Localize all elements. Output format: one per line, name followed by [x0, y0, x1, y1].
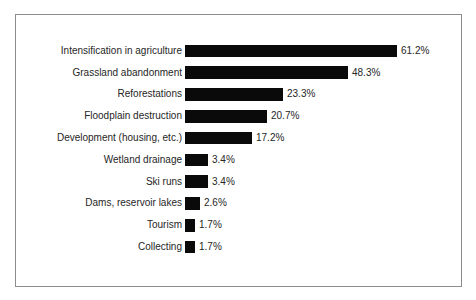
value-label: 17.2% [256, 132, 284, 144]
bar [185, 197, 200, 210]
bar-row: Reforestations23.3% [16, 84, 461, 106]
bar [185, 66, 348, 79]
bar-row: Dams, reservoir lakes2.6% [16, 193, 461, 215]
chart-frame: Intensification in agriculture61.2%Grass… [15, 14, 462, 287]
value-label: 20.7% [271, 110, 299, 122]
bar [185, 219, 195, 232]
bar-row: Tourism1.7% [16, 214, 461, 236]
bar [185, 110, 267, 123]
bar-row: Intensification in agriculture61.2% [16, 40, 461, 62]
category-label: Intensification in agriculture [16, 45, 182, 57]
bar-row: Development (housing, etc.)17.2% [16, 127, 461, 149]
bar-row: Floodplain destruction20.7% [16, 105, 461, 127]
category-label: Reforestations [16, 88, 182, 100]
category-label: Development (housing, etc.) [16, 132, 182, 144]
bar-row: Ski runs3.4% [16, 171, 461, 193]
category-label: Dams, reservoir lakes [16, 197, 182, 209]
value-label: 1.7% [199, 241, 222, 253]
value-label: 61.2% [401, 45, 429, 57]
bar-row: Wetland drainage3.4% [16, 149, 461, 171]
category-label: Ski runs [16, 176, 182, 188]
category-label: Grassland abandonment [16, 67, 182, 79]
category-label: Floodplain destruction [16, 110, 182, 122]
category-label: Collecting [16, 241, 182, 253]
bar-rows: Intensification in agriculture61.2%Grass… [16, 40, 461, 258]
value-label: 23.3% [287, 88, 315, 100]
bar [185, 175, 208, 188]
value-label: 48.3% [352, 67, 380, 79]
bar-row: Grassland abandonment48.3% [16, 62, 461, 84]
bar [185, 45, 397, 58]
category-label: Wetland drainage [16, 154, 182, 166]
bar [185, 154, 208, 167]
bar [185, 132, 252, 145]
value-label: 3.4% [212, 154, 235, 166]
value-label: 3.4% [212, 176, 235, 188]
value-label: 2.6% [204, 197, 227, 209]
bar-row: Collecting1.7% [16, 236, 461, 258]
bar [185, 88, 283, 101]
category-label: Tourism [16, 219, 182, 231]
bar [185, 241, 195, 254]
value-label: 1.7% [199, 219, 222, 231]
